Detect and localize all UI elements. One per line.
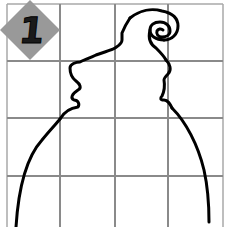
puzzle-number: 1 <box>17 10 46 52</box>
drawing-grid-canvas: 1 <box>0 0 235 227</box>
puzzle-number-badge: 1 <box>0 0 60 60</box>
